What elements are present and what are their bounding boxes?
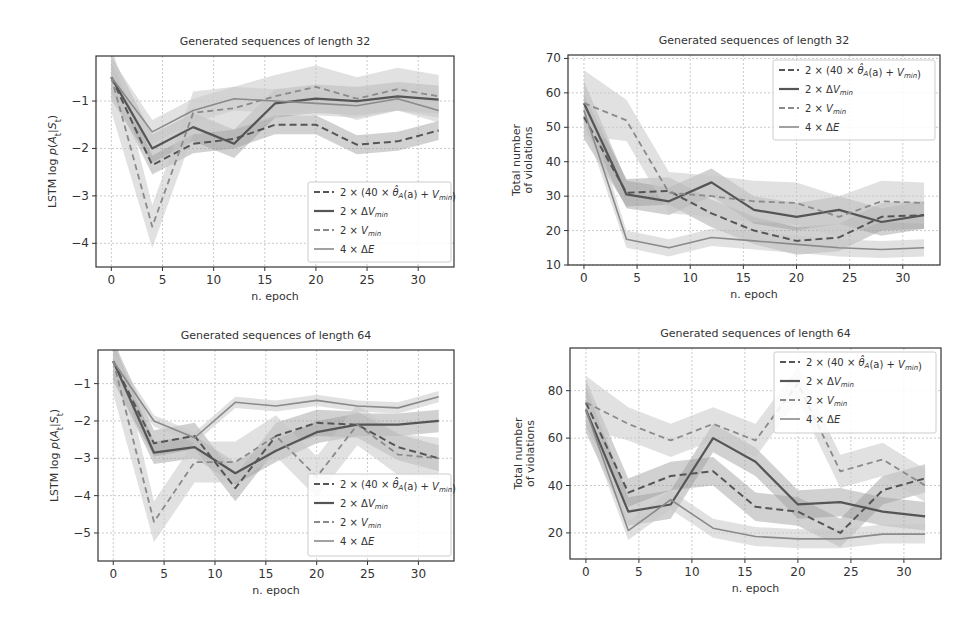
y-tick-label: 80 (548, 384, 563, 398)
x-tick-label: 0 (109, 567, 117, 581)
chart-panel-tr: Generated sequences of length 3205101520… (510, 34, 940, 301)
x-tick-label: 0 (582, 565, 590, 579)
y-axis: 10203040506070Total numberof violations (510, 51, 568, 272)
x-tick-label: 30 (896, 565, 911, 579)
x-tick-label: 0 (580, 271, 588, 285)
y-tick-label: 40 (548, 479, 563, 493)
legend: 2 × (40 × θ̂A(a) + Vmin)2 × ΔVmin2 × Vmi… (308, 474, 456, 556)
legend: 2 × (40 × θ̂A(a) + Vmin)2 × ΔVmin2 × Vmi… (308, 182, 456, 262)
x-tick-label: 15 (737, 565, 752, 579)
legend-label: 4 × ΔE (806, 414, 841, 425)
x-tick-label: 25 (843, 565, 858, 579)
legend: 2 × (40 × θ̂A(a) + Vmin)2 × ΔVmin2 × Vmi… (773, 60, 935, 140)
legend: 2 × (40 × θ̂A(a) + Vmin)2 × ΔVmin2 × Vmi… (774, 352, 936, 433)
x-tick-label: 5 (633, 271, 641, 285)
x-tick-label: 20 (308, 273, 323, 287)
x-tick-label: 20 (789, 271, 804, 285)
y-tick-label: −2 (71, 141, 89, 155)
legend-label: 4 × ΔE (340, 536, 375, 547)
x-axis: 051015202530n. epoch (582, 559, 911, 595)
x-tick-label: 25 (842, 271, 857, 285)
chart-panel-tl: Generated sequences of length 3205101520… (46, 35, 456, 303)
y-tick-label: −4 (71, 236, 89, 250)
chart-panel-br: Generated sequences of length 6405101520… (512, 327, 941, 595)
figure: Generated sequences of length 3205101520… (0, 0, 961, 629)
y-tick-label: 60 (546, 86, 561, 100)
y-axis-label: Total numberof violations (512, 417, 537, 491)
x-tick-label: 30 (895, 271, 910, 285)
y-tick-label: 10 (546, 258, 561, 272)
chart-title: Generated sequences of length 64 (181, 329, 372, 342)
y-tick-label: 70 (546, 51, 561, 65)
x-tick-label: 10 (683, 271, 698, 285)
charts-canvas: Generated sequences of length 3205101520… (0, 0, 961, 629)
y-axis-label: LSTM log p(At|St) (48, 409, 65, 502)
y-tick-label: 40 (546, 155, 561, 169)
x-tick-label: 25 (360, 567, 375, 581)
x-tick-label: 15 (258, 567, 273, 581)
y-tick-label: 50 (546, 120, 561, 134)
x-tick-label: 15 (736, 271, 751, 285)
y-tick-label: −3 (71, 189, 89, 203)
y-tick-label: −1 (73, 377, 91, 391)
y-tick-label: −1 (71, 94, 89, 108)
x-axis: 051015202530n. epoch (580, 265, 910, 301)
x-tick-label: 30 (411, 273, 426, 287)
x-tick-label: 20 (790, 565, 805, 579)
x-tick-label: 10 (207, 567, 222, 581)
x-tick-label: 5 (635, 565, 643, 579)
y-tick-label: 20 (548, 526, 563, 540)
y-axis: −5−4−3−2−1LSTM log p(At|St) (48, 377, 98, 540)
legend-label: 4 × ΔE (340, 244, 375, 255)
x-tick-label: 5 (159, 273, 167, 287)
x-tick-label: 5 (160, 567, 168, 581)
y-axis-label: LSTM log p(At|St) (46, 115, 63, 208)
x-tick-label: 30 (411, 567, 426, 581)
x-axis-label: n. epoch (730, 288, 777, 301)
legend-label: 4 × ΔE (805, 122, 840, 133)
y-tick-label: 60 (548, 431, 563, 445)
x-axis: 051015202530n. epoch (109, 561, 426, 597)
x-axis-label: n. epoch (732, 582, 779, 595)
y-tick-label: −2 (73, 414, 91, 428)
x-tick-label: 10 (206, 273, 221, 287)
x-tick-label: 25 (359, 273, 374, 287)
x-tick-label: 10 (684, 565, 699, 579)
x-axis-label: n. epoch (251, 290, 298, 303)
y-axis: −4−3−2−1LSTM log p(At|St) (46, 94, 96, 250)
x-tick-label: 0 (108, 273, 116, 287)
chart-title: Generated sequences of length 32 (659, 34, 850, 47)
chart-title: Generated sequences of length 32 (180, 35, 371, 48)
x-axis: 051015202530n. epoch (108, 267, 426, 303)
chart-panel-bl: Generated sequences of length 6405101520… (48, 328, 456, 597)
chart-title: Generated sequences of length 64 (660, 327, 851, 340)
x-tick-label: 15 (257, 273, 272, 287)
y-tick-label: 30 (546, 189, 561, 203)
y-tick-label: −3 (73, 451, 91, 465)
y-tick-label: −5 (73, 526, 91, 540)
y-tick-label: 20 (546, 224, 561, 238)
y-tick-label: −4 (73, 489, 91, 503)
y-axis: 20406080Total numberof violations (512, 384, 570, 540)
x-tick-label: 20 (309, 567, 324, 581)
x-axis-label: n. epoch (252, 584, 299, 597)
y-axis-label: Total numberof violations (510, 123, 535, 197)
